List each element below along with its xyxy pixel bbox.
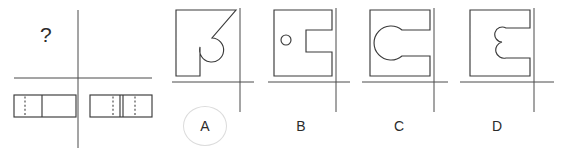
option-a[interactable]: A — [168, 0, 264, 154]
option-c[interactable]: C — [360, 0, 458, 154]
option-a-drawing — [168, 0, 264, 120]
option-c-shape — [370, 10, 430, 76]
option-d-shape — [470, 10, 530, 76]
bottom-view-right — [90, 95, 152, 117]
option-c-drawing — [360, 0, 458, 120]
option-b-drawing — [264, 0, 360, 120]
option-d-label: D — [475, 119, 519, 133]
option-d[interactable]: D — [458, 0, 567, 154]
question-panel: ? — [0, 0, 168, 154]
question-mark: ? — [40, 24, 52, 45]
option-b-label: B — [279, 119, 323, 133]
option-b[interactable]: B — [264, 0, 360, 154]
option-b-hole — [281, 35, 291, 45]
option-a-label: A — [183, 119, 227, 133]
bottom-view-left — [14, 95, 76, 117]
question-panel-drawing — [0, 0, 168, 154]
option-a-shape — [176, 10, 236, 76]
option-c-label: C — [377, 119, 421, 133]
option-d-drawing — [458, 0, 567, 120]
figure-canvas: ? — [0, 0, 567, 154]
